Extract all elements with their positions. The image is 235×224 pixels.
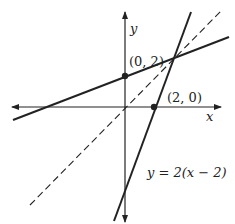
coordinate-diagram: y x (0, 2) (2, 0) y = 2(x − 2) xyxy=(0,0,235,224)
point-0-2 xyxy=(122,73,128,79)
equation-label: y = 2(x − 2) xyxy=(146,165,227,180)
y-axis-label: y xyxy=(129,21,138,36)
x-axis-label: x xyxy=(206,109,214,124)
point-label-0-2: (0, 2) xyxy=(129,54,164,69)
point-label-2-0: (2, 0) xyxy=(167,90,202,105)
point-2-0 xyxy=(151,104,157,110)
